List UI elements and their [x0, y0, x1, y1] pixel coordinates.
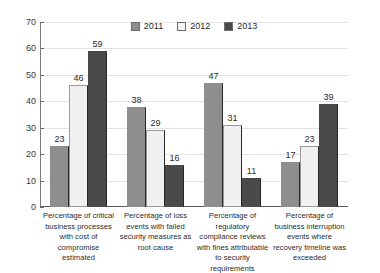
bar-slot-2011-3: 47: [204, 22, 223, 207]
bar-value-2011-2: 38: [131, 96, 141, 105]
legend-label-2012: 2012: [190, 22, 210, 31]
chart-legend: 2011 2012 2013: [40, 19, 348, 33]
legend-label-2011: 2011: [144, 22, 163, 31]
bar-slot-2012-4: 23: [300, 22, 319, 207]
bar-value-2013-2: 16: [169, 154, 179, 163]
bar-value-2012-3: 31: [227, 114, 237, 123]
y-tick-label-10: 10: [6, 176, 36, 185]
x-axis-label-3: Percentage of regulatory compliance revi…: [194, 211, 271, 271]
legend-swatch-2012: [177, 22, 186, 31]
bar-value-2012-1: 46: [73, 74, 83, 83]
y-tick-label-70: 70: [6, 18, 36, 27]
bar-slot-2013-4: 39: [319, 22, 338, 207]
bar-value-2012-4: 23: [304, 135, 314, 144]
bar-2011-4[interactable]: [281, 162, 300, 207]
bar-2011-1[interactable]: [50, 146, 69, 207]
bar-groups: 234659382916473111172339: [40, 22, 348, 207]
legend-swatch-2013: [224, 22, 233, 31]
bar-slot-2013-3: 11: [242, 22, 261, 207]
legend-item-2013: 2013: [224, 22, 257, 31]
y-tick-label-20: 20: [6, 150, 36, 159]
y-tick-label-30: 30: [6, 123, 36, 132]
bar-2013-3[interactable]: [242, 178, 261, 207]
bar-value-2011-1: 23: [54, 135, 64, 144]
bar-chart: 2011 2012 2013 706050403020100 234659382…: [0, 0, 380, 273]
legend-item-2011: 2011: [131, 22, 163, 31]
bar-value-2013-1: 59: [92, 40, 102, 49]
bar-slot-2013-1: 59: [88, 22, 107, 207]
x-axis-label-2: Percentage of loss events with failed se…: [117, 211, 194, 271]
legend-swatch-2011: [131, 22, 140, 31]
bar-slot-2011-1: 23: [50, 22, 69, 207]
y-tick-label-40: 40: [6, 97, 36, 106]
bar-value-2013-3: 11: [247, 167, 256, 176]
bar-group-2: 382916: [117, 22, 194, 207]
x-axis-labels: Percentage of critical business processe…: [40, 211, 348, 271]
bars-row: 234659: [40, 22, 117, 207]
bar-slot-2011-2: 38: [127, 22, 146, 207]
bar-2013-4[interactable]: [319, 104, 338, 207]
bar-slot-2012-3: 31: [223, 22, 242, 207]
bar-group-4: 172339: [271, 22, 348, 207]
bar-2011-3[interactable]: [204, 83, 223, 207]
bar-2011-2[interactable]: [127, 107, 146, 207]
bar-group-1: 234659: [40, 22, 117, 207]
bar-value-2013-4: 39: [323, 93, 333, 102]
legend-item-2012: 2012: [177, 22, 210, 31]
bars-row: 473111: [194, 22, 271, 207]
bar-2012-1[interactable]: [69, 85, 88, 207]
y-tick-label-0: 0: [6, 203, 36, 212]
bar-value-2011-4: 17: [285, 151, 295, 160]
bar-slot-2013-2: 16: [165, 22, 184, 207]
bar-group-3: 473111: [194, 22, 271, 207]
bar-value-2011-3: 47: [208, 72, 218, 81]
bar-value-2012-2: 29: [150, 119, 160, 128]
y-tick-mark-0: [40, 207, 44, 208]
bar-slot-2011-4: 17: [281, 22, 300, 207]
y-tick-label-60: 60: [6, 44, 36, 53]
bar-2012-4[interactable]: [300, 146, 319, 207]
y-axis: 706050403020100: [0, 22, 36, 207]
legend-label-2013: 2013: [237, 22, 257, 31]
bar-2012-3[interactable]: [223, 125, 242, 207]
y-tick-label-50: 50: [6, 70, 36, 79]
bar-slot-2012-1: 46: [69, 22, 88, 207]
x-axis-label-1: Percentage of critical business processe…: [40, 211, 117, 271]
x-axis-label-4: Percentage of business interruption even…: [271, 211, 348, 271]
bar-2013-1[interactable]: [88, 51, 107, 207]
bar-2013-2[interactable]: [165, 165, 184, 207]
bars-row: 172339: [271, 22, 348, 207]
bar-2012-2[interactable]: [146, 130, 165, 207]
bars-row: 382916: [117, 22, 194, 207]
bar-slot-2012-2: 29: [146, 22, 165, 207]
